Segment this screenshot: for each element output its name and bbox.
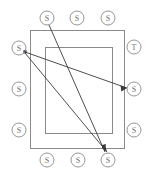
node-n-top-2[interactable]: S bbox=[70, 11, 84, 25]
edge-left1-to-right2 bbox=[25, 52, 127, 88]
diagram-canvas: S S S S S S T S bbox=[0, 0, 152, 174]
edge-top1-to-bottom3 bbox=[49, 25, 105, 152]
node-label: S bbox=[17, 85, 21, 94]
node-n-bottom-1[interactable]: S bbox=[40, 153, 54, 167]
node-label: S bbox=[45, 14, 49, 23]
node-label: S bbox=[17, 126, 21, 135]
node-label: S bbox=[132, 126, 136, 135]
node-n-left-1[interactable]: S bbox=[12, 41, 26, 55]
node-label: S bbox=[106, 14, 110, 23]
node-label: S bbox=[76, 156, 80, 165]
edge-group bbox=[23, 25, 127, 152]
diagram-svg: S S S S S S T S bbox=[0, 0, 152, 174]
node-n-bottom-3[interactable]: S bbox=[101, 153, 115, 167]
node-n-left-3[interactable]: S bbox=[12, 123, 26, 137]
node-label: S bbox=[75, 14, 79, 23]
arrow-head-right2 bbox=[121, 85, 128, 91]
node-n-right-2[interactable]: S bbox=[127, 82, 141, 96]
node-label: S bbox=[132, 85, 136, 94]
edge-left1-to-bottom3 bbox=[25, 53, 107, 152]
node-n-right-3[interactable]: S bbox=[127, 123, 141, 137]
node-label: S bbox=[106, 156, 110, 165]
node-n-bottom-2[interactable]: S bbox=[71, 153, 85, 167]
node-label: S bbox=[45, 156, 49, 165]
node-label: T bbox=[132, 43, 137, 52]
node-n-top-3[interactable]: S bbox=[101, 11, 115, 25]
node-n-left-2[interactable]: S bbox=[12, 82, 26, 96]
node-n-right-1[interactable]: T bbox=[127, 40, 141, 54]
node-n-top-1[interactable]: S bbox=[40, 11, 54, 25]
node-label: S bbox=[17, 44, 21, 53]
